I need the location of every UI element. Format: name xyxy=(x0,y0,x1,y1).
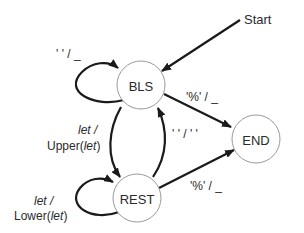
bls-rest-label: let / xyxy=(78,123,99,137)
rest-bls-label: ' ' / ' ' xyxy=(172,127,198,141)
transition-rest-bls: ' ' / ' ' xyxy=(153,108,198,177)
start-arrow xyxy=(162,20,240,71)
rest-self-label-line1: let / xyxy=(34,194,55,208)
rest-bls-arrow xyxy=(153,108,165,177)
bls-rest-label-line1: let / xyxy=(78,123,99,137)
start-transition: Start xyxy=(162,12,272,71)
rest-self-loop-label-line2: Lower(let) xyxy=(14,209,67,223)
state-end: END xyxy=(232,115,280,163)
transition-rest-end: '%' / _ xyxy=(159,150,234,193)
rest-end-label: '%' / _ xyxy=(190,179,222,193)
state-rest-label: REST xyxy=(120,192,155,207)
rest-self-loop-label: let / xyxy=(34,194,55,208)
bls-rest-label-line2: Upper(let) xyxy=(47,139,100,153)
state-end-label: END xyxy=(242,133,269,148)
bls-end-label: '%' / _ xyxy=(186,90,218,104)
bls-self-loop-label: ' ' / _ xyxy=(56,47,81,61)
state-bls-label: BLS xyxy=(129,79,154,94)
transition-bls-end: '%' / _ xyxy=(164,90,231,127)
start-label: Start xyxy=(244,12,272,27)
bls-rest-arrow xyxy=(110,107,121,177)
transition-bls-self: ' ' / _ xyxy=(56,47,124,102)
state-rest: REST xyxy=(113,174,161,222)
state-diagram: Start ' ' / _ '%' / _ let / Upper(let) '… xyxy=(0,0,304,233)
state-bls: BLS xyxy=(117,61,165,109)
transition-bls-rest: let / Upper(let) xyxy=(47,107,121,177)
transition-rest-self: let / Lower(let) xyxy=(14,179,119,223)
